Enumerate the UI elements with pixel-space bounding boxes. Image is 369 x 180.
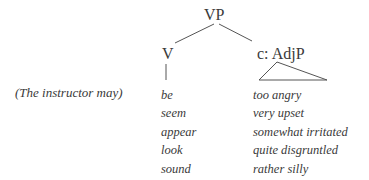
complement-item: very upset bbox=[253, 104, 348, 122]
context-label: (The instructor may) bbox=[15, 86, 123, 100]
complement-item: somewhat irritated bbox=[253, 123, 348, 141]
node-v: V bbox=[162, 46, 174, 62]
branch-vp-adjp bbox=[219, 24, 252, 41]
adjp-triangle bbox=[259, 62, 327, 80]
node-vp: VP bbox=[204, 7, 224, 23]
complement-item: quite disgruntled bbox=[253, 141, 348, 159]
complement-item: too angry bbox=[253, 86, 348, 104]
branch-vp-v bbox=[175, 24, 214, 43]
complement-list: too angry very upset somewhat irritated … bbox=[253, 86, 348, 178]
verb-list: be seem appear look sound bbox=[161, 86, 196, 178]
verb-item: seem bbox=[161, 104, 196, 122]
complement-item: rather silly bbox=[253, 160, 348, 178]
verb-item: look bbox=[161, 141, 196, 159]
verb-item: sound bbox=[161, 160, 196, 178]
verb-item: appear bbox=[161, 123, 196, 141]
node-adjp: c: AdjP bbox=[257, 46, 305, 62]
verb-item: be bbox=[161, 86, 196, 104]
